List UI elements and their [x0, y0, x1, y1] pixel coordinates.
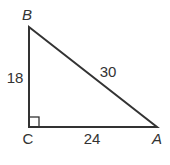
vertex-label-a: A: [151, 130, 162, 147]
side-label-bc: 18: [7, 69, 24, 86]
right-angle-marker: [29, 117, 39, 127]
side-label-ba: 30: [100, 63, 117, 80]
vertex-label-c: C: [23, 130, 34, 147]
triangle-abc: [29, 27, 157, 127]
triangle-diagram: B C A 18 30 24: [0, 0, 170, 165]
side-label-ca: 24: [84, 130, 101, 147]
vertex-label-b: B: [22, 6, 32, 23]
